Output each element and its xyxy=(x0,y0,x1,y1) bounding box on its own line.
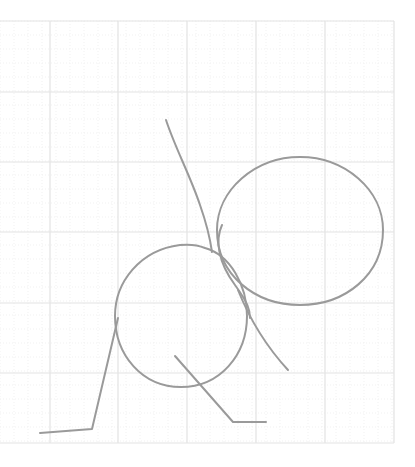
bottom-polyline-stroke xyxy=(175,356,266,422)
drawing-canvas[interactable] xyxy=(0,0,415,467)
left-polyline-stroke xyxy=(40,318,118,433)
sketch-strokes xyxy=(40,120,383,433)
